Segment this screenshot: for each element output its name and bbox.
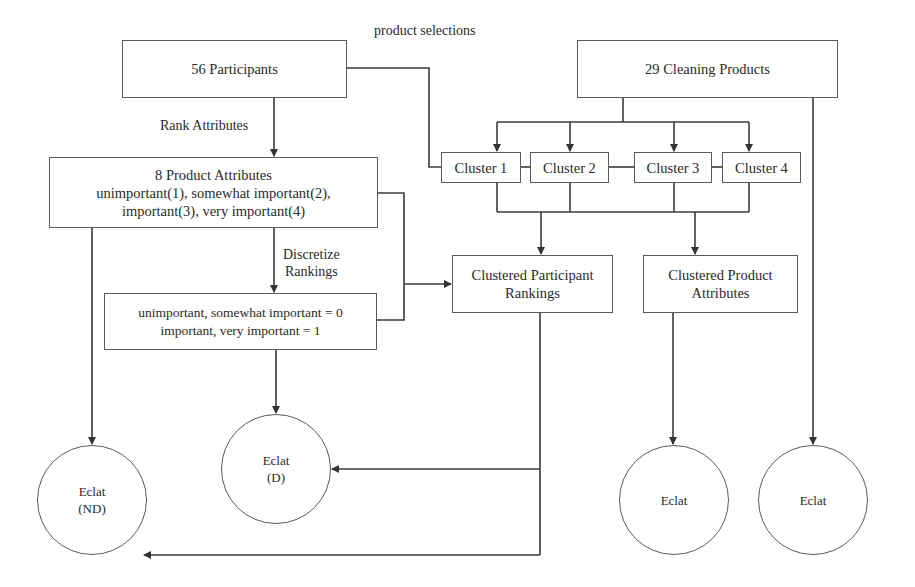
cluster-4-label: Cluster 4 [735,159,788,177]
cluster-3-node: Cluster 3 [634,152,712,183]
eclat-d-node: Eclat (D) [221,414,331,524]
eclat-clustered-products-label: Eclat [661,492,688,509]
rank-attributes-label: Rank Attributes [160,117,248,134]
eclat-clustered-products-node: Eclat [619,445,729,555]
edge-product-selections [347,68,441,167]
eclat-d-line-2: (D) [267,469,285,486]
cpa-line-1: Clustered Product [668,266,772,284]
product-attributes-node: 8 Product Attributes unimportant(1), som… [49,157,378,228]
discretized-line-1: unimportant, somewhat important = 0 [138,304,342,322]
product-attributes-scale-1: unimportant(1), somewhat important(2), [96,184,330,202]
cluster-2-label: Cluster 2 [543,159,596,177]
discretize-rankings-label: Discretize Rankings [283,246,340,280]
eclat-products-label: Eclat [800,492,827,509]
clustered-participant-rankings-node: Clustered Participant Rankings [452,255,613,313]
eclat-nd-line-1: Eclat [79,483,106,500]
cluster-3-label: Cluster 3 [647,159,700,177]
cluster-1-label: Cluster 1 [455,159,508,177]
participants-node: 56 Participants [122,40,347,98]
cluster-4-node: Cluster 4 [722,152,801,183]
cleaning-products-label: 29 Cleaning Products [645,60,770,78]
cleaning-products-node: 29 Cleaning Products [577,40,838,98]
participants-label: 56 Participants [191,60,278,78]
cpr-line-2: Rankings [505,284,560,302]
eclat-nd-node: Eclat (ND) [37,445,147,555]
eclat-flow-diagram: 56 Participants 29 Cleaning Products pro… [0,0,915,587]
eclat-products-node: Eclat [758,445,868,555]
product-selections-label: product selections [374,22,475,39]
eclat-d-line-1: Eclat [263,452,290,469]
discretize-line-2: Rankings [283,263,340,280]
product-attributes-title: 8 Product Attributes [155,166,272,184]
cpa-line-2: Attributes [692,284,750,302]
cluster-2-node: Cluster 2 [530,152,609,183]
discretized-line-2: important, very important = 1 [160,322,320,340]
discretized-rankings-node: unimportant, somewhat important = 0 impo… [104,293,377,350]
clustered-product-attributes-node: Clustered Product Attributes [643,255,798,313]
cluster-1-node: Cluster 1 [441,152,521,183]
cpr-line-1: Clustered Participant [471,266,593,284]
eclat-nd-line-2: (ND) [78,500,105,517]
product-attributes-scale-2: important(3), very important(4) [122,202,305,220]
discretize-line-1: Discretize [283,246,340,263]
